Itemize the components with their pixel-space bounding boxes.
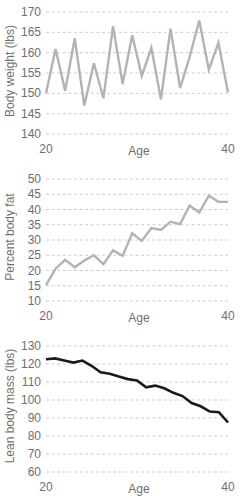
ytick-label: 70 — [28, 447, 42, 461]
yaxis-title-lean-body-mass: Lean body mass (lbs) — [3, 349, 17, 464]
xaxis-title-age: Age — [128, 311, 150, 325]
ytick-label: 110 — [22, 375, 41, 389]
ytick-label: 50 — [28, 172, 42, 186]
gridlines-percent-body-fat — [46, 179, 228, 301]
figure-body-composition-panels: 140145150155160165170 20 40 Age Body wei… — [0, 0, 242, 503]
ytick-label: 140 — [21, 127, 41, 141]
ytick-label: 120 — [21, 357, 41, 371]
ytick-label: 30 — [28, 233, 42, 247]
ytick-label: 130 — [21, 339, 41, 353]
ytick-label: 20 — [28, 264, 42, 278]
ytick-labels-lean-body-mass: 60708090100110120130 — [21, 339, 41, 479]
ytick-label: 80 — [28, 429, 42, 443]
xtick-label-right: 40 — [221, 309, 235, 323]
ytick-label: 15 — [28, 279, 42, 293]
ytick-label: 90 — [28, 411, 42, 425]
yaxis-title-body-weight: Body weight (lbs) — [3, 25, 17, 117]
ytick-label: 100 — [21, 393, 41, 407]
lean-body-mass-line-chart: 60708090100110120130 20 40 Age Lean body… — [0, 332, 242, 503]
lean-body-mass-series-line — [46, 358, 228, 422]
xtick-label-right: 40 — [221, 142, 235, 156]
percent-body-fat-line-chart: 101520253035404550 20 40 Age Percent bod… — [0, 165, 242, 332]
ytick-label: 145 — [21, 107, 41, 121]
chart-panel-percent-body-fat: 101520253035404550 20 40 Age Percent bod… — [0, 165, 242, 332]
ytick-label: 160 — [21, 46, 41, 60]
ytick-label: 155 — [21, 66, 41, 80]
ytick-label: 45 — [28, 187, 42, 201]
ytick-label: 10 — [28, 294, 42, 308]
ytick-labels-body-weight: 140145150155160165170 — [21, 5, 41, 141]
xtick-label-right: 40 — [221, 480, 235, 494]
ytick-label: 165 — [21, 25, 41, 39]
ytick-label: 40 — [28, 203, 42, 217]
ytick-label: 60 — [28, 465, 42, 479]
yaxis-title-percent-body-fat: Percent body fat — [3, 193, 17, 281]
chart-panel-lean-body-mass: 60708090100110120130 20 40 Age Lean body… — [0, 332, 242, 503]
xtick-label-left: 20 — [39, 309, 53, 323]
body-weight-series-line — [46, 21, 228, 106]
ytick-label: 35 — [28, 218, 42, 232]
ytick-label: 150 — [21, 86, 41, 100]
xaxis-title-age: Age — [128, 482, 150, 496]
ytick-label: 25 — [28, 248, 42, 262]
xaxis-title-age: Age — [128, 144, 150, 158]
xtick-label-left: 20 — [39, 480, 53, 494]
ytick-labels-percent-body-fat: 101520253035404550 — [28, 172, 42, 308]
xtick-label-left: 20 — [39, 142, 53, 156]
ytick-label: 170 — [21, 5, 41, 19]
gridlines-lean-body-mass — [46, 346, 228, 472]
body-weight-line-chart: 140145150155160165170 20 40 Age Body wei… — [0, 0, 242, 165]
chart-panel-body-weight: 140145150155160165170 20 40 Age Body wei… — [0, 0, 242, 165]
